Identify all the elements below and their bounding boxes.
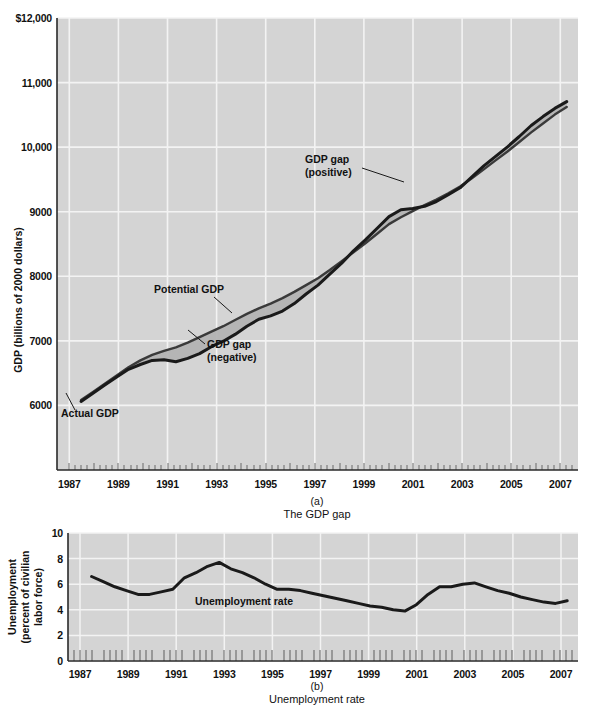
gdp-gap-positive-line2: (positive) bbox=[305, 166, 352, 178]
x-tick-a-10: 2007 bbox=[549, 478, 572, 490]
y-tick-a-6: 6000 bbox=[29, 399, 52, 411]
x-tick-a-9: 2005 bbox=[500, 478, 523, 490]
y-tick-a-5: 7000 bbox=[29, 335, 52, 347]
x-tick-a-1: 1989 bbox=[107, 478, 130, 490]
economics-figure: $12,000 11,000 10,000 9000 8000 7000 600… bbox=[0, 0, 595, 705]
y-tick-a-0: $12,000 bbox=[15, 12, 52, 24]
y-axis-title-b-line2: (percent of civilian bbox=[19, 551, 31, 644]
unemployment-rate-inline-label: Unemployment rate bbox=[195, 595, 293, 607]
x-tick-b-2: 1991 bbox=[165, 668, 188, 680]
panel-b-letter: (b) bbox=[311, 680, 324, 692]
y-axis-title-a: GDP (billions of 2000 dollars) bbox=[12, 227, 24, 373]
y-axis-title-b-line3: labor force) bbox=[32, 568, 44, 626]
x-tick-b-7: 2001 bbox=[405, 668, 428, 680]
x-tick-b-8: 2003 bbox=[454, 668, 477, 680]
panel-a-letter: (a) bbox=[311, 495, 324, 507]
y-tick-b-5: 0 bbox=[57, 655, 63, 667]
plot-area-a-background bbox=[57, 18, 578, 470]
x-tick-a-5: 1997 bbox=[304, 478, 327, 490]
y-tick-a-1: 11,000 bbox=[22, 77, 53, 89]
y-tick-b-4: 2 bbox=[57, 629, 63, 641]
panel-a-caption: The GDP gap bbox=[283, 508, 350, 520]
x-tick-b-3: 1993 bbox=[213, 668, 236, 680]
x-tick-a-0: 1987 bbox=[58, 478, 81, 490]
y-tick-b-1: 8 bbox=[57, 553, 63, 565]
x-tick-b-9: 2005 bbox=[502, 668, 525, 680]
x-tick-b-4: 1995 bbox=[261, 668, 284, 680]
potential-gdp-label: Potential GDP bbox=[154, 283, 224, 295]
gdp-gap-positive-line1: GDP gap bbox=[305, 153, 349, 165]
gdp-gap-negative-line1: GDP gap bbox=[207, 338, 251, 350]
y-tick-b-2: 6 bbox=[57, 578, 63, 590]
x-tick-b-0: 1987 bbox=[69, 668, 92, 680]
x-tick-a-6: 1999 bbox=[353, 478, 376, 490]
x-tick-a-7: 2001 bbox=[402, 478, 425, 490]
actual-gdp-label: Actual GDP bbox=[61, 407, 119, 419]
x-tick-b-10: 2007 bbox=[550, 668, 573, 680]
x-tick-a-2: 1991 bbox=[156, 478, 179, 490]
y-tick-a-4: 8000 bbox=[29, 270, 52, 282]
x-tick-a-8: 2003 bbox=[451, 478, 474, 490]
panel-gdp-gap: $12,000 11,000 10,000 9000 8000 7000 600… bbox=[12, 12, 578, 520]
x-tick-b-5: 1997 bbox=[309, 668, 332, 680]
y-tick-b-3: 4 bbox=[57, 604, 63, 616]
y-tick-a-3: 9000 bbox=[29, 206, 52, 218]
y-tick-b-0: 10 bbox=[52, 527, 64, 539]
x-tick-b-6: 1999 bbox=[357, 668, 380, 680]
x-tick-a-3: 1993 bbox=[205, 478, 228, 490]
x-tick-a-4: 1995 bbox=[254, 478, 277, 490]
x-tick-b-1: 1989 bbox=[117, 668, 140, 680]
y-axis-title-b-line1: Unemployment bbox=[6, 559, 18, 635]
gdp-gap-negative-line2: (negative) bbox=[207, 351, 257, 363]
panel-b-caption: Unemployment rate bbox=[269, 693, 365, 705]
y-tick-a-2: 10,000 bbox=[21, 141, 52, 153]
